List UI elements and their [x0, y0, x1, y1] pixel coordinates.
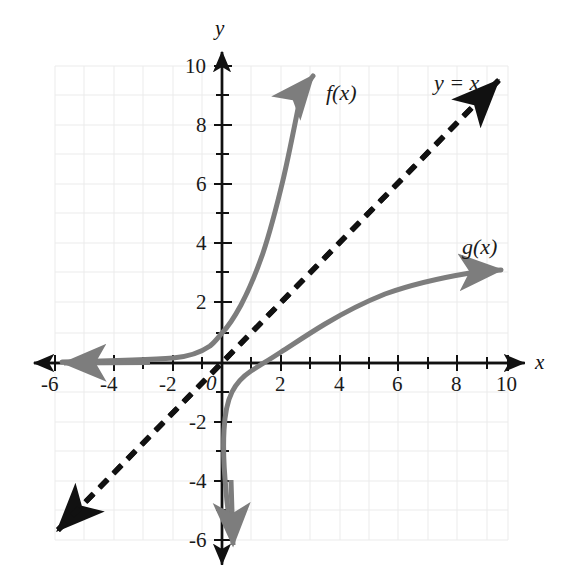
identity-line-y-equals-x	[58, 80, 499, 530]
x-tick-label--6: -6	[41, 374, 59, 395]
identity-line-upper-arrow	[58, 81, 498, 530]
curve-g	[224, 270, 501, 535]
x-tick-label--4: -4	[100, 374, 118, 395]
curve-g-bottom-arrow	[231, 480, 233, 545]
x-tick-label-2: 2	[275, 374, 286, 395]
coordinate-plane	[0, 0, 570, 579]
curve-label-f: f(x)	[326, 82, 357, 104]
x-tick-label-10: 10	[496, 374, 517, 395]
curve-label-identity-line: y = x	[434, 72, 479, 94]
x-axis-label: x	[535, 352, 544, 373]
x-tick-label-4: 4	[334, 374, 345, 395]
graph-figure: y x 0 -6 -4 -2 2 4 6 8 10 10 8 6 4 2 -2 …	[0, 0, 570, 579]
y-tick-label--6: -6	[189, 530, 207, 551]
curve-f-left-arrow	[64, 363, 150, 364]
y-tick-label-2: 2	[196, 292, 207, 313]
origin-label: 0	[206, 373, 217, 394]
x-tick-label-6: 6	[392, 374, 403, 395]
y-tick-label-10: 10	[185, 56, 206, 77]
y-axis-label: y	[215, 18, 224, 39]
x-tick-label--2: -2	[159, 374, 177, 395]
y-tick-label--2: -2	[189, 412, 207, 433]
y-tick-label--4: -4	[189, 471, 207, 492]
y-tick-label-8: 8	[196, 115, 207, 136]
y-tick-label-6: 6	[196, 174, 207, 195]
curve-label-g: g(x)	[462, 236, 497, 258]
curve-f	[62, 76, 313, 362]
y-tick-label-4: 4	[196, 233, 207, 254]
x-tick-label-8: 8	[451, 374, 462, 395]
